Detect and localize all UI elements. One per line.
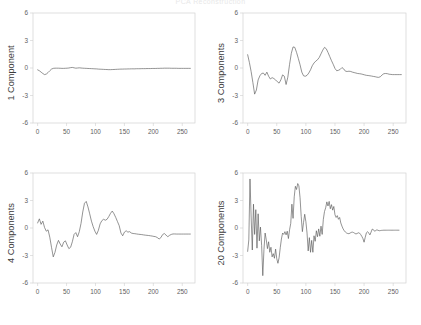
- labels-1-component: 1 Component: [0, 5, 210, 165]
- ylabel-20-components: 20 Components: [216, 200, 226, 265]
- panel-3-components: -6-3036050100150200250 3 Components: [210, 5, 421, 165]
- panel-20-components: -6-3036050100150200250 20 Components: [210, 165, 421, 325]
- labels-3-components: 3 Components: [210, 5, 421, 165]
- ylabel-3-components: 3 Components: [216, 43, 226, 103]
- labels-4-components: 4 Components: [0, 165, 210, 325]
- ylabel-1-component: 1 Component: [6, 45, 16, 101]
- labels-20-components: 20 Components: [210, 165, 421, 325]
- ylabel-4-components: 4 Components: [6, 203, 16, 263]
- panel-1-component: -6-3036050100150200250 1 Component: [0, 5, 210, 165]
- panel-4-components: -6-3036050100150200250 4 Components: [0, 165, 210, 325]
- figure-canvas: PCA Reconstruction -6-303605010015020025…: [0, 0, 421, 325]
